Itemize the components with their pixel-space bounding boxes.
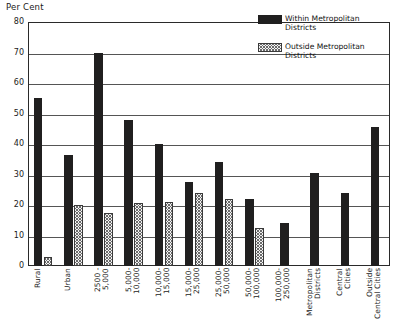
- y-tick-label: 20: [2, 200, 24, 209]
- y-tick-label: 40: [2, 139, 24, 148]
- y-tick-label: 60: [2, 78, 24, 87]
- x-tick-label: 5,000- 10,000: [125, 268, 143, 320]
- legend-swatch-hatch: [258, 43, 282, 52]
- x-tick-label: 100,000- 250,000: [275, 268, 293, 320]
- x-tick-label: 25,000- 50,000: [215, 268, 233, 320]
- x-tick-label: Metropolitan Districts: [306, 268, 324, 320]
- x-tick-label: 10,000- 15,000: [155, 268, 173, 320]
- x-tick-label: Outside Central Cities: [366, 268, 384, 320]
- y-tick-label: 30: [2, 170, 24, 179]
- x-axis-tick-labels: RuralUrban2500 - 5,0005,000- 10,00010,00…: [28, 268, 390, 321]
- x-tick-label: 15,000- 25,000: [185, 268, 203, 320]
- legend-item: Within Metropolitan Districts: [258, 14, 394, 32]
- x-tick-label: Central Cities: [336, 268, 354, 320]
- legend-item: Outside Metropolitan Districts: [258, 42, 394, 60]
- y-tick-label: 70: [2, 48, 24, 57]
- y-tick-label: 10: [2, 231, 24, 240]
- y-tick-label: 50: [2, 109, 24, 118]
- legend-swatch-solid: [258, 15, 282, 24]
- x-tick-label: 2500 - 5,000: [94, 268, 112, 320]
- y-tick-label: 0: [2, 261, 24, 270]
- gridline: [29, 206, 389, 207]
- x-tick-label: Urban: [64, 268, 82, 320]
- chart-root: Per Cent 01020304050607080 RuralUrban250…: [0, 0, 398, 321]
- chart-legend: Within Metropolitan DistrictsOutside Met…: [258, 14, 394, 70]
- gridline: [29, 176, 389, 177]
- x-tick-label: 50,000- 100,000: [245, 268, 263, 320]
- legend-label: Outside Metropolitan Districts: [285, 42, 365, 60]
- gridline: [29, 237, 389, 238]
- x-tick-label: Rural: [34, 268, 52, 320]
- legend-label: Within Metropolitan Districts: [285, 14, 360, 32]
- gridline: [29, 84, 389, 85]
- y-axis-title: Per Cent: [6, 2, 44, 12]
- gridline: [29, 115, 389, 116]
- y-tick-label: 80: [2, 17, 24, 26]
- gridline: [29, 145, 389, 146]
